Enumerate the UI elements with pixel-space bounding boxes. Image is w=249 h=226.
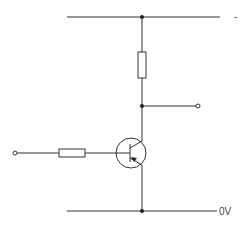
- resistor-r2: [59, 149, 85, 157]
- resistor-r1: [138, 52, 146, 78]
- output-terminal: [196, 104, 200, 108]
- ground-junction-dot: [140, 209, 144, 213]
- supply-label: -: [234, 11, 237, 22]
- transistor-collector-lead: [130, 141, 142, 148]
- circuit-diagram: - 0V: [0, 0, 249, 226]
- input-terminal: [13, 151, 17, 155]
- ground-label: 0V: [219, 206, 232, 217]
